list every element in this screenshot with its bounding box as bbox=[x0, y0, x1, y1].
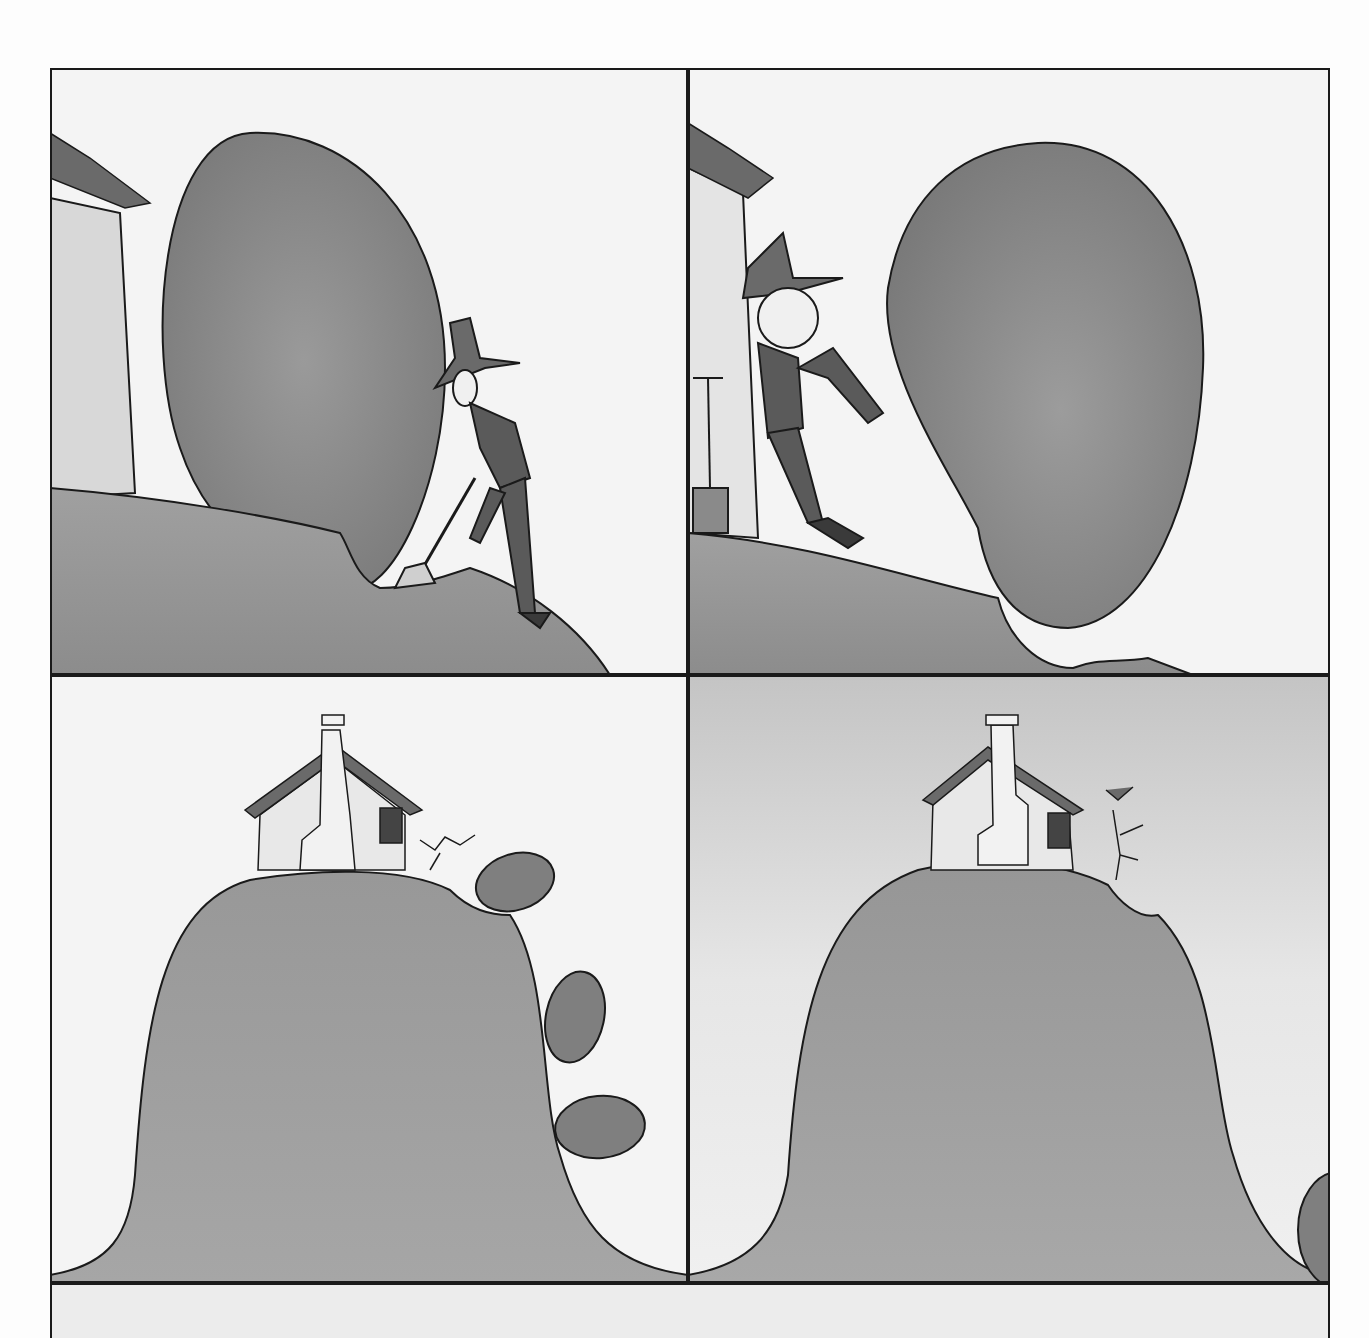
panel-3-rolling bbox=[50, 675, 688, 1283]
panel-3-illustration bbox=[50, 675, 688, 1283]
panel-2-kicking bbox=[688, 68, 1330, 675]
panel-1-illustration bbox=[50, 68, 688, 675]
panel-1-digging bbox=[50, 68, 688, 675]
panel-4-celebrating bbox=[688, 675, 1330, 1283]
panel-2-illustration bbox=[688, 68, 1330, 675]
comic-page bbox=[0, 0, 1369, 1338]
panel-4-illustration bbox=[688, 675, 1330, 1283]
panel-5-partial bbox=[50, 1283, 1330, 1338]
